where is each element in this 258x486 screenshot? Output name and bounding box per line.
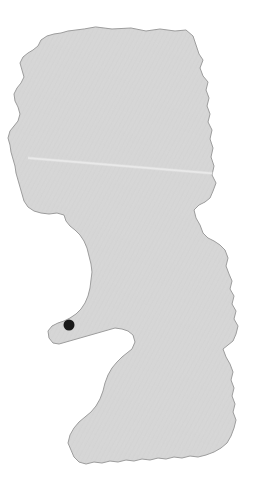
region-texture xyxy=(0,0,258,486)
map-svg xyxy=(0,0,258,486)
location-marker[interactable] xyxy=(64,320,75,331)
map-canvas xyxy=(0,0,258,486)
